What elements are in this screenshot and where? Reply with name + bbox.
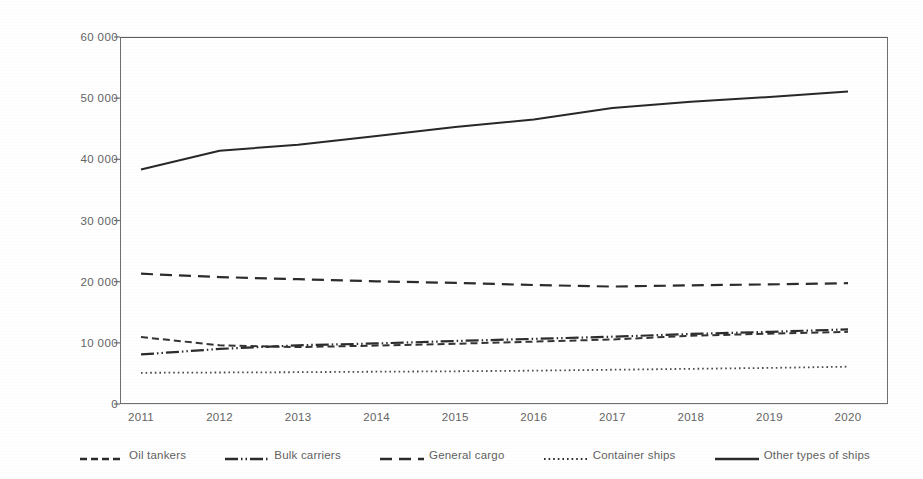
x-axis-label: 2017 <box>599 411 626 423</box>
x-axis-label: 2014 <box>363 411 390 423</box>
y-axis-label: 50 000 <box>6 92 118 104</box>
legend-item-general-cargo[interactable]: General cargo <box>380 449 504 461</box>
legend-item-other-types-of-ships[interactable]: Other types of ships <box>715 449 870 461</box>
x-axis-label: 2018 <box>677 411 704 423</box>
y-axis-label: 20 000 <box>6 276 118 288</box>
legend-label: Container ships <box>593 449 676 461</box>
x-axis-label: 2012 <box>206 411 233 423</box>
y-axis-label: 30 000 <box>6 215 118 227</box>
legend-label: Bulk carriers <box>274 449 341 461</box>
x-axis-label: 2016 <box>520 411 547 423</box>
legend-label: Oil tankers <box>129 449 186 461</box>
chart-series-layer <box>0 0 923 479</box>
legend-label: Other types of ships <box>764 449 870 461</box>
legend-item-bulk-carriers[interactable]: Bulk carriers <box>225 449 341 461</box>
legend-swatch-icon <box>715 450 759 460</box>
x-axis-label: 2015 <box>442 411 469 423</box>
legend-swatch-icon <box>380 450 424 460</box>
chart-legend: Oil tankersBulk carriersGeneral cargoCon… <box>80 444 870 466</box>
y-axis-tick-labels: 60 00050 00040 00030 00020 00010 0000 <box>0 0 118 479</box>
y-axis-label: 0 <box>6 398 118 410</box>
y-axis-label: 60 000 <box>6 31 118 43</box>
legend-swatch-icon <box>544 450 588 460</box>
y-axis-label: 10 000 <box>6 337 118 349</box>
series-line-container-ships <box>141 367 848 373</box>
legend-label: General cargo <box>429 449 504 461</box>
line-chart: 60 00050 00040 00030 00020 00010 0000 20… <box>0 0 923 479</box>
series-line-general-cargo <box>141 274 848 287</box>
series-line-other-types-of-ships <box>141 91 848 169</box>
legend-item-container-ships[interactable]: Container ships <box>544 449 676 461</box>
y-axis-label: 40 000 <box>6 153 118 165</box>
x-axis-label: 2013 <box>285 411 312 423</box>
x-axis-label: 2020 <box>835 411 862 423</box>
legend-item-oil-tankers[interactable]: Oil tankers <box>80 449 186 461</box>
x-axis-label: 2011 <box>128 411 154 423</box>
legend-swatch-icon <box>80 450 124 460</box>
x-axis-label: 2019 <box>756 411 783 423</box>
legend-swatch-icon <box>225 450 269 460</box>
